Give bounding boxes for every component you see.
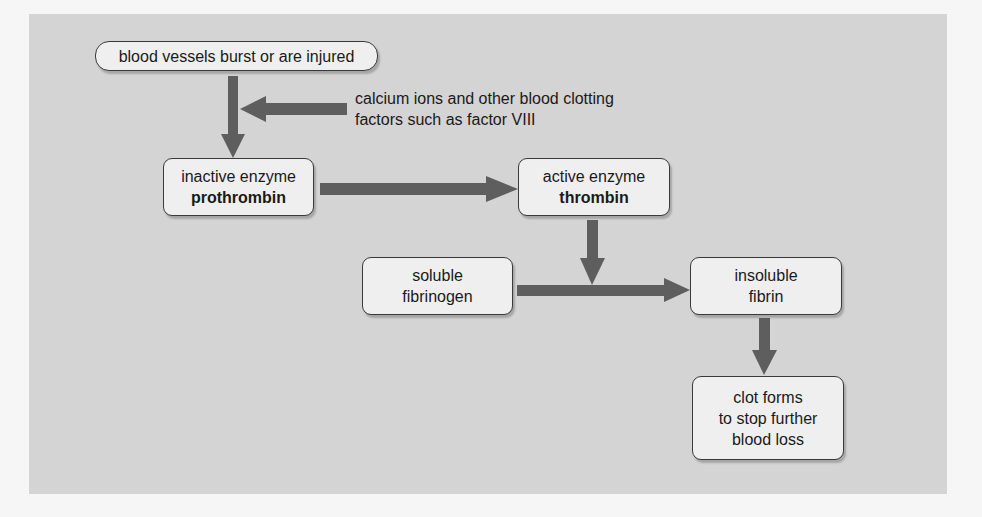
node-prothrombin-line2: prothrombin	[191, 187, 286, 208]
node-prothrombin-line1: inactive enzyme	[181, 166, 296, 187]
node-fibrinogen-line1: soluble	[412, 265, 463, 286]
arrow-fibrin-to-clot	[752, 318, 777, 375]
node-clot-line1: clot forms	[733, 387, 802, 408]
arrow-cofactors-to-injury-path	[240, 96, 347, 122]
arrow-thrombin-to-conversion	[580, 220, 605, 285]
node-prothrombin: inactive enzyme prothrombin	[163, 158, 314, 216]
node-thrombin: active enzyme thrombin	[518, 158, 670, 216]
arrow-injury-to-prothrombin	[221, 76, 245, 158]
node-cofactors: calcium ions and other blood clotting fa…	[355, 88, 614, 130]
node-clot-line3: blood loss	[732, 429, 804, 450]
arrow-fibrinogen-to-fibrin	[517, 278, 690, 302]
node-injury-text: blood vessels burst or are injured	[119, 46, 355, 67]
node-clot-line2: to stop further	[719, 408, 818, 429]
node-fibrin-line2: fibrin	[749, 286, 784, 307]
node-fibrin-line1: insoluble	[734, 265, 797, 286]
node-fibrinogen: soluble fibrinogen	[362, 257, 513, 315]
node-fibrin: insoluble fibrin	[690, 257, 842, 315]
node-cofactors-line2: factors such as factor VIII	[355, 109, 614, 130]
node-cofactors-line1: calcium ions and other blood clotting	[355, 88, 614, 109]
node-clot: clot forms to stop further blood loss	[692, 376, 844, 460]
node-thrombin-line2: thrombin	[559, 187, 628, 208]
node-fibrinogen-line2: fibrinogen	[402, 286, 472, 307]
node-thrombin-line1: active enzyme	[543, 166, 645, 187]
node-injury: blood vessels burst or are injured	[95, 41, 378, 71]
arrow-prothrombin-to-thrombin	[320, 176, 518, 202]
